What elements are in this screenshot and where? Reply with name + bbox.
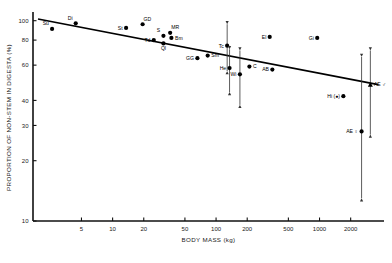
data-point-label: Wi <box>231 71 237 77</box>
x-tick-label: 500 <box>283 226 294 232</box>
data-point-circle <box>161 34 165 38</box>
x-tick-label: 20 <box>140 226 147 232</box>
x-tick-label: 5 <box>80 226 84 232</box>
x-tick-label: 200 <box>242 226 253 232</box>
y-tick-label: 30 <box>22 123 29 129</box>
error-bar-cap <box>228 92 231 95</box>
data-point-label: AB <box>262 66 269 72</box>
data-point-circle <box>268 35 272 39</box>
data-point-label: C <box>253 63 257 69</box>
data-point-circle <box>124 26 128 30</box>
y-tick-label: 60 <box>22 62 29 68</box>
error-bar-cap <box>360 54 363 57</box>
y-axis-title: PROPORTION OF NON-STEM IN DIGESTA (%) <box>5 44 12 191</box>
data-point-circle <box>169 36 173 40</box>
data-point-label: Hi (●) <box>327 93 340 99</box>
x-tick-label: 2000 <box>344 226 358 232</box>
data-point-circle <box>195 56 199 60</box>
y-tick-label: 40 <box>22 98 29 104</box>
data-point-circle <box>315 36 319 40</box>
error-bar-cap <box>226 71 229 74</box>
data-point-circle <box>74 21 78 25</box>
data-point-label: Tc <box>219 43 225 49</box>
data-point-label: Bm <box>175 35 183 41</box>
data-point-label: GD <box>144 16 152 22</box>
data-point-label: Gi <box>309 35 314 41</box>
error-bar-cap <box>238 105 241 108</box>
data-point-label: AE ♂ <box>374 81 386 87</box>
data-point-label: AE ♀ <box>346 128 358 134</box>
error-bar-cap <box>228 46 231 49</box>
data-point-label: Sm <box>211 52 219 58</box>
figure-panel: 100806040302010510205010020050010002000B… <box>0 0 392 263</box>
x-tick-label: 100 <box>211 226 222 232</box>
y-tick-label: 20 <box>22 158 29 164</box>
regression-line <box>38 19 378 85</box>
data-point-circle <box>206 53 210 57</box>
data-point-label: St <box>118 25 123 31</box>
data-point-label: Ql <box>161 45 166 51</box>
error-bar-cap <box>238 47 241 50</box>
data-point-circle <box>152 38 156 42</box>
data-point-label: GG <box>186 55 194 61</box>
data-point-circle <box>238 72 242 76</box>
data-point-circle <box>141 22 145 26</box>
y-tick-label: 80 <box>22 37 29 43</box>
y-tick-label: 10 <box>22 218 29 224</box>
data-point-label: S <box>157 27 161 33</box>
data-point-circle <box>341 94 345 98</box>
error-bar-cap <box>360 198 363 201</box>
data-point-label: He <box>220 65 227 71</box>
data-point-label: Di <box>68 15 73 21</box>
data-point-label: Su <box>43 20 49 26</box>
data-point-circle <box>247 64 251 68</box>
scatter-plot-canvas: 100806040302010510205010020050010002000B… <box>0 0 392 263</box>
data-point-label: El <box>262 34 267 40</box>
error-bar-cap <box>369 47 372 50</box>
data-point-circle <box>227 66 231 70</box>
data-point-circle <box>168 31 172 35</box>
x-tick-label: 50 <box>182 226 189 232</box>
x-axis-title: BODY MASS (kg) <box>182 236 236 243</box>
data-point-label: MR <box>171 24 179 30</box>
x-tick-label: 1000 <box>313 226 327 232</box>
y-tick-label: 100 <box>18 18 29 24</box>
error-bar-cap <box>226 21 229 24</box>
data-point-circle <box>270 67 274 71</box>
error-bar-cap <box>369 135 372 138</box>
x-tick-label: 10 <box>109 226 116 232</box>
data-point-circle <box>359 129 363 133</box>
data-point-circle <box>50 27 54 31</box>
data-point-label: Td <box>144 37 150 43</box>
